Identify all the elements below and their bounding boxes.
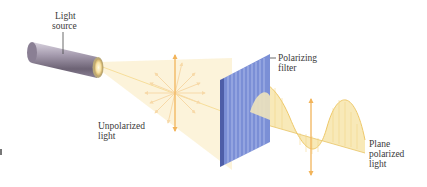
label-unpolarized-light: Unpolarized light [98,121,145,141]
label-line: light [369,159,404,169]
label-line: Unpolarized [98,121,145,131]
edge-mark [0,149,2,155]
label-polarizing-filter: Polarizing filter [278,53,317,73]
light-beam [100,58,232,170]
label-line: Light [52,11,77,21]
light-source-icon [27,32,104,78]
label-plane-polarized-light: Plane polarized light [369,139,404,169]
label-line: source [52,21,77,31]
label-line: filter [278,63,317,73]
label-line: Polarizing [278,53,317,63]
label-line: Plane [369,139,404,149]
label-line: light [98,131,145,141]
label-light-source: Light source [52,11,77,31]
label-line: polarized [369,149,404,159]
